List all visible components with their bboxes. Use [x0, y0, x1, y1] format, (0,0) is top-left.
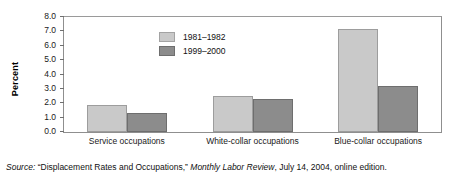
- source-rest: , July 14, 2004, online edition.: [274, 162, 386, 172]
- y-tick-mark: [60, 102, 64, 103]
- y-tick-label: 2.0: [27, 97, 56, 107]
- bar[interactable]: [253, 99, 293, 132]
- legend-label-1999-2000: 1999–2000: [183, 46, 226, 56]
- y-tick-label: 4.0: [27, 69, 56, 79]
- y-tick-mark: [60, 131, 64, 132]
- legend-label-1981-1982: 1981–1982: [183, 32, 226, 42]
- legend-swatch-1999-2000: [159, 46, 175, 56]
- bar[interactable]: [213, 96, 253, 132]
- source-note: Source: “Displacement Rates and Occupati…: [6, 162, 387, 173]
- y-tick-label: 1.0: [27, 112, 56, 122]
- y-tick-mark: [60, 30, 64, 31]
- bar-group: [338, 17, 418, 132]
- source-publication: Monthly Labor Review: [190, 162, 274, 172]
- bar[interactable]: [338, 29, 378, 133]
- y-tick-label: 8.0: [27, 11, 56, 21]
- y-tick-mark: [60, 59, 64, 60]
- bar[interactable]: [87, 105, 127, 132]
- y-tick-label: 7.0: [27, 25, 56, 35]
- y-tick-mark: [60, 74, 64, 75]
- source-label: Source:: [6, 162, 35, 172]
- y-tick-label: 3.0: [27, 83, 56, 93]
- y-tick-label: 0.0: [27, 126, 56, 136]
- y-tick-label: 6.0: [27, 40, 56, 50]
- bar[interactable]: [127, 113, 167, 132]
- y-tick-label: 5.0: [27, 54, 56, 64]
- legend-item[interactable]: 1999–2000: [159, 45, 226, 56]
- y-tick-mark: [60, 45, 64, 46]
- plot-inner: 0.01.02.03.04.05.06.07.08.0: [64, 17, 441, 132]
- y-tick-mark: [60, 88, 64, 89]
- legend-swatch-1981-1982: [159, 32, 175, 42]
- y-tick-mark: [60, 16, 64, 17]
- legend: 1981–1982 1999–2000: [159, 31, 226, 59]
- legend-item[interactable]: 1981–1982: [159, 31, 226, 42]
- bar[interactable]: [378, 86, 418, 132]
- plot-area: 0.01.02.03.04.05.06.07.08.0 1981–1982 19…: [63, 16, 442, 133]
- x-axis-label: Blue-collar occupations: [298, 136, 457, 147]
- bar-group: [87, 17, 167, 132]
- y-axis-title: Percent: [10, 44, 20, 114]
- source-quoted-title: “Displacement Rates and Occupations,”: [38, 162, 188, 172]
- y-tick-mark: [60, 117, 64, 118]
- chart-figure: Percent 0.01.02.03.04.05.06.07.08.0 1981…: [0, 0, 457, 180]
